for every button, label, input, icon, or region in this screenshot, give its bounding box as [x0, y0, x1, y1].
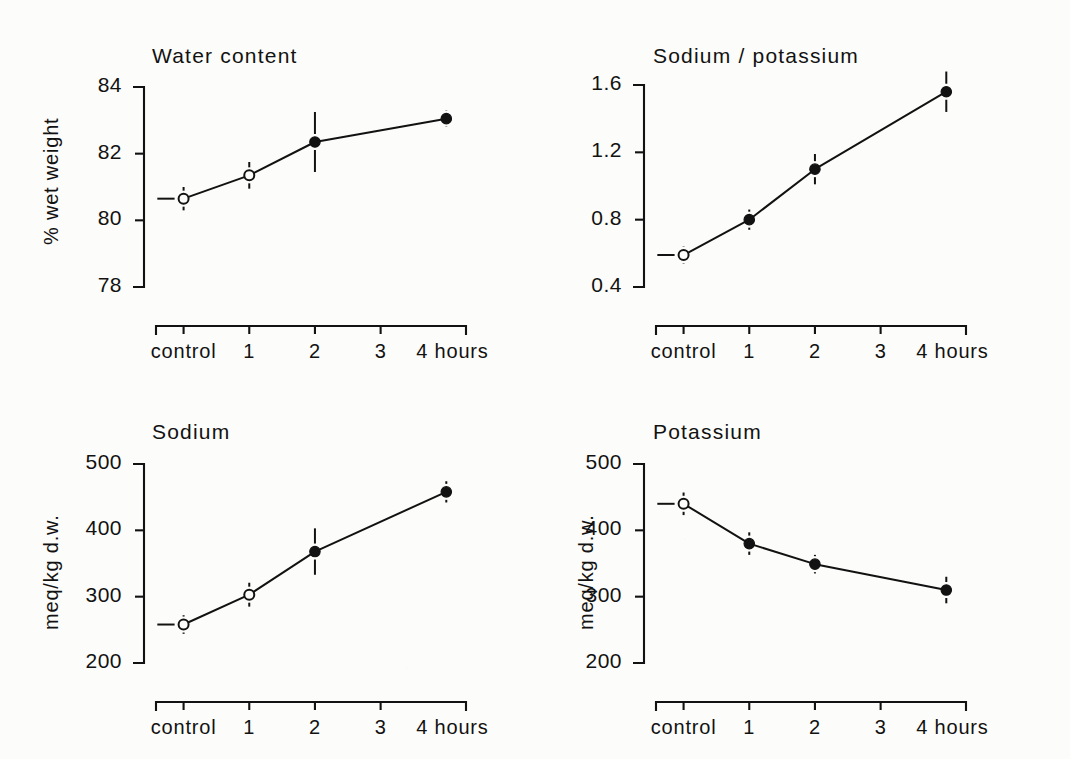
data-point-filled	[810, 559, 820, 569]
plot-area	[535, 380, 1070, 759]
plot-area	[0, 380, 535, 759]
y-axis-spine	[633, 464, 644, 663]
x-axis-spine	[156, 326, 466, 335]
data-point-open	[679, 250, 689, 260]
x-axis-spine	[156, 702, 466, 711]
data-point-open	[244, 170, 254, 180]
chart-panel-bottom-left: Sodiummeq/kg d.w.200300400500control1234…	[0, 380, 535, 759]
data-point-filled	[810, 164, 820, 174]
plot-area	[0, 0, 535, 379]
data-point-filled	[441, 113, 451, 123]
data-point-filled	[744, 538, 754, 548]
data-point-open	[244, 590, 254, 600]
data-point-filled	[441, 487, 451, 497]
chart-panel-bottom-right: Potassiummeq/kg d.w.200300400500control1…	[535, 380, 1070, 759]
x-axis-spine	[656, 702, 966, 711]
chart-panel-top-left: Water content% wet weight78808284control…	[0, 0, 535, 379]
y-axis-spine	[633, 85, 644, 287]
data-point-filled	[310, 546, 320, 556]
y-axis-spine	[133, 464, 144, 663]
data-point-open	[679, 499, 689, 509]
y-axis-spine	[133, 87, 144, 287]
data-point-filled	[310, 137, 320, 147]
data-point-filled	[941, 87, 951, 97]
data-series-line	[684, 504, 947, 590]
data-point-filled	[744, 214, 754, 224]
data-point-open	[179, 620, 189, 630]
data-point-filled	[941, 585, 951, 595]
data-point-open	[179, 194, 189, 204]
x-axis-spine	[656, 326, 966, 335]
data-series-line	[184, 492, 447, 625]
chart-panel-top-right: Sodium / potassium0.40.81.21.6control123…	[535, 0, 1070, 379]
plot-area	[535, 0, 1070, 379]
figure-canvas: Water content% wet weight78808284control…	[0, 0, 1070, 759]
